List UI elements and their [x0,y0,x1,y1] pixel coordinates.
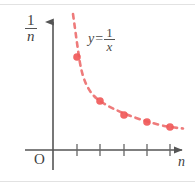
data-point [96,97,104,105]
data-point [73,53,81,61]
equation-denominator: x [104,40,115,53]
data-point [143,118,151,126]
y-axis-label-denominator: n [25,29,37,44]
equation-lhs: y [88,31,94,46]
data-point [120,111,128,119]
data-point [166,123,174,131]
equation-label: y= 1 x [88,26,115,54]
data-points [73,53,174,131]
equation-equals-sign: = [95,31,103,46]
y-axis-label-fraction: 1 n [25,13,37,45]
y-axis-label-numerator: 1 [25,13,37,29]
x-axis-label: n [178,155,185,169]
figure-canvas: 1 n y= 1 x O n [0,0,195,190]
equation-numerator: 1 [104,26,115,40]
equation-fraction: 1 x [104,26,115,54]
origin-label: O [34,152,45,167]
y-axis-label: 1 n [25,13,37,45]
